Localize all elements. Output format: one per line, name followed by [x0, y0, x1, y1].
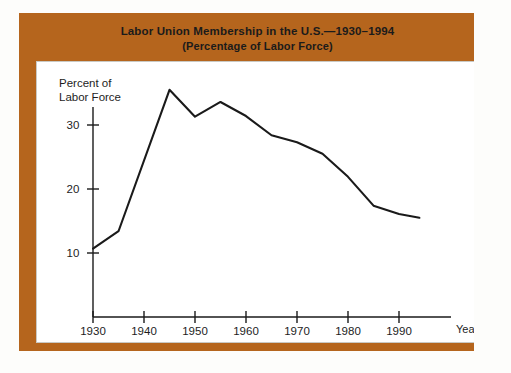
x-tick-label-1950: 1950	[173, 325, 217, 337]
x-tick-label-1940: 1940	[122, 325, 166, 337]
x-tick-label-1990: 1990	[377, 325, 421, 337]
chart-frame: Labor Union Membership in the U.S.—1930–…	[19, 13, 496, 351]
x-tick-label-1980: 1980	[326, 325, 370, 337]
x-tick-label-1970: 1970	[275, 325, 319, 337]
y-tick-label-30: 30	[63, 119, 83, 131]
chart-title-banner: Labor Union Membership in the U.S.—1930–…	[19, 13, 496, 61]
frame-right-bleed	[474, 13, 496, 351]
chart-title: Labor Union Membership in the U.S.—1930–…	[121, 24, 395, 39]
y-tick-label-20: 20	[63, 183, 83, 195]
x-tick-label-1930: 1930	[71, 325, 115, 337]
plot-area-container: Percent of Labor Force Year	[36, 61, 491, 343]
y-tick-label-10: 10	[63, 247, 83, 259]
chart-subtitle: (Percentage of Labor Force)	[182, 39, 333, 54]
x-tick-label-1960: 1960	[224, 325, 268, 337]
data-series-line	[93, 90, 419, 249]
figure-canvas: Labor Union Membership in the U.S.—1930–…	[0, 0, 511, 373]
line-chart-plot	[37, 62, 491, 343]
